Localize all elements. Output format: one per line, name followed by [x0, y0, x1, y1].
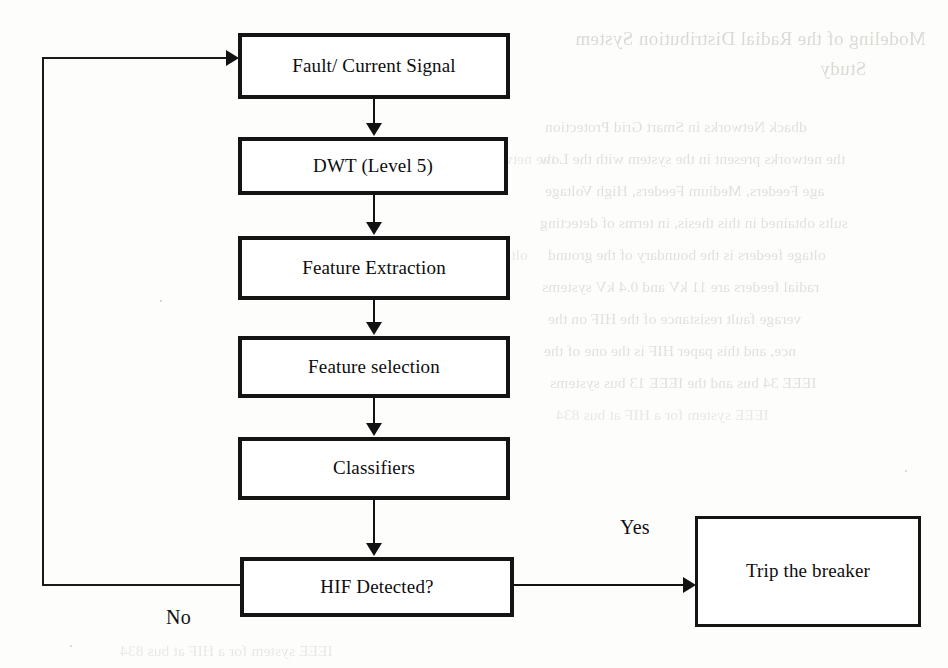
- arrowhead-down: [366, 123, 382, 136]
- node-label: Fault/ Current Signal: [292, 56, 456, 77]
- node-label: HIF Detected?: [320, 577, 433, 598]
- feedback-edge-horizontal-top: [42, 57, 228, 59]
- node-classifiers[interactable]: Classifiers: [238, 437, 510, 500]
- edge-classifiers-to-hif: [373, 500, 375, 544]
- feedback-edge-vertical-left: [42, 58, 44, 586]
- node-feature-extraction[interactable]: Feature Extraction: [238, 236, 510, 300]
- edge-label-no: No: [166, 606, 191, 629]
- flowchart-page: Modeling of the Radial Distribution Syst…: [0, 0, 948, 668]
- node-hif-detected[interactable]: HIF Detected?: [240, 557, 514, 617]
- edge-hif-to-trip-breaker: [512, 584, 692, 586]
- arrowhead-down: [366, 423, 382, 436]
- feedback-edge-horizontal-bottom: [42, 584, 242, 586]
- edge-feature-selection-to-classifiers: [373, 398, 375, 424]
- edge-fault-to-dwt: [373, 99, 375, 125]
- edge-label-yes: Yes: [620, 516, 650, 539]
- arrowhead-down: [366, 322, 382, 335]
- node-trip-the-breaker[interactable]: Trip the breaker: [695, 516, 921, 627]
- node-fault-current-signal[interactable]: Fault/ Current Signal: [238, 33, 510, 99]
- arrowhead-down: [366, 222, 382, 235]
- node-label: Classifiers: [333, 458, 415, 479]
- edge-dwt-to-feature-extraction: [373, 195, 375, 223]
- node-label: DWT (Level 5): [313, 156, 433, 177]
- arrowhead-down: [366, 543, 382, 556]
- node-dwt-level-5[interactable]: DWT (Level 5): [238, 137, 508, 195]
- node-label: Feature selection: [308, 357, 440, 378]
- edge-feature-extraction-to-selection: [373, 300, 375, 324]
- node-label: Trip the breaker: [746, 561, 870, 582]
- flowchart: Yes No Fault/ Current Signal DWT (Level …: [0, 0, 948, 668]
- node-feature-selection[interactable]: Feature selection: [238, 336, 510, 398]
- node-label: Feature Extraction: [302, 258, 446, 279]
